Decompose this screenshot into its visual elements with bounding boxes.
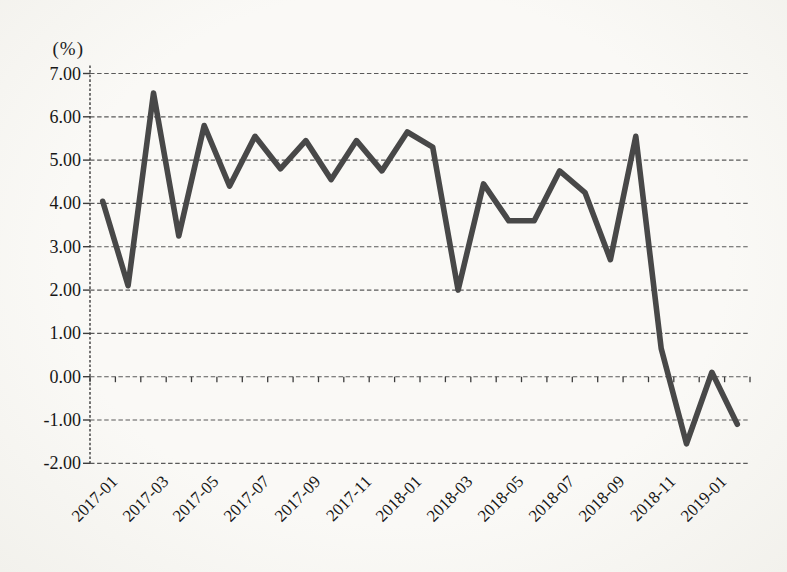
y-axis-unit-label: (%) xyxy=(0,38,84,60)
chart-canvas: (%) 7.006.005.004.003.002.001.000.00-1.0… xyxy=(0,0,787,572)
y-tick-label: 1.00 xyxy=(0,323,81,343)
y-tick-label: 5.00 xyxy=(0,150,81,170)
y-tick-label: 2.00 xyxy=(0,280,81,300)
data-series-line xyxy=(103,93,738,444)
y-tick-label: 3.00 xyxy=(0,237,81,257)
y-tick-label: -1.00 xyxy=(0,410,81,430)
y-tick-label: -2.00 xyxy=(0,453,81,473)
y-tick-label: 7.00 xyxy=(0,64,81,84)
y-tick-label: 4.00 xyxy=(0,193,81,213)
y-tick-label: 0.00 xyxy=(0,367,81,387)
y-tick-label: 6.00 xyxy=(0,107,81,127)
